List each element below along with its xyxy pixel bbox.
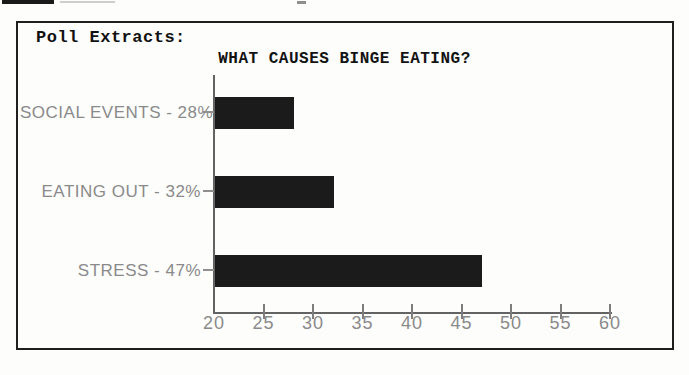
bar [215,176,334,208]
axis-tick-label: 50 [491,313,531,333]
bar [215,97,294,129]
bar-label: SOCIAL EVENTS - 28% [20,102,201,124]
leader-line [203,111,214,113]
leader-line [203,269,214,271]
axis-tick-label: 40 [392,313,432,333]
leader-line [203,190,214,192]
axis-tick-label: 30 [293,313,333,333]
axis-tick-label: 60 [590,313,630,333]
axis-tick-label: 20 [194,313,234,333]
bar-label: EATING OUT - 32% [20,181,201,203]
bar [215,255,482,287]
bar-label: STRESS - 47% [20,260,201,282]
screenshot-root: Poll Extracts: WHAT CAUSES BINGE EATING?… [0,0,689,375]
axis-tick-label: 45 [442,313,482,333]
chart-area: 202530354045505560SOCIAL EVENTS - 28%EAT… [0,0,689,375]
axis-tick-label: 35 [343,313,383,333]
axis-tick-label: 25 [244,313,284,333]
axis-tick-label: 55 [541,313,581,333]
